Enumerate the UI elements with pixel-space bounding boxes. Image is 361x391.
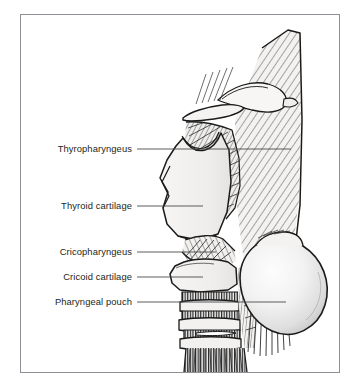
label-thyropharyngeus: Thyropharyngeus <box>0 143 132 154</box>
label-cricoid-cartilage: Cricoid cartilage <box>0 271 132 282</box>
label-pharyngeal-pouch: Pharyngeal pouch <box>0 296 132 307</box>
larynx-illustration <box>0 0 361 391</box>
figure-page: Thyropharyngeus Thyroid cartilage Cricop… <box>0 0 361 391</box>
label-cricopharyngeus: Cricopharyngeus <box>0 246 132 257</box>
label-thyroid-cartilage: Thyroid cartilage <box>0 200 132 211</box>
